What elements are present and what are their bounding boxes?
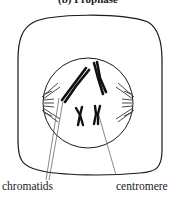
- cell-illustration: [0, 0, 176, 198]
- chromosome-small-right: [94, 106, 100, 124]
- chromosome-small-left: [76, 107, 83, 125]
- chromatids-label: chromatids: [2, 180, 53, 192]
- chromosome-tall: [94, 62, 106, 94]
- chromosome-large-diagonal: [62, 68, 89, 102]
- cell-membrane: [18, 15, 162, 175]
- prophase-diagram: (b) Prophase: [0, 0, 176, 198]
- centromere-label: centromere: [116, 180, 168, 192]
